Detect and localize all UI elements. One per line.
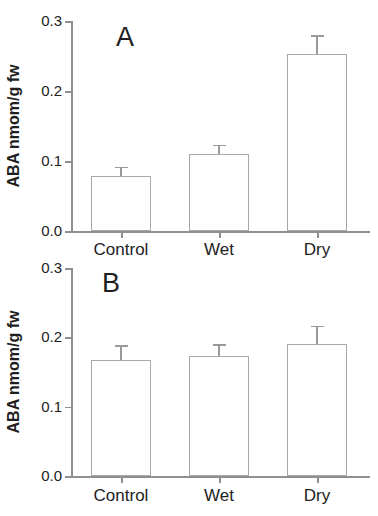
bar-control	[91, 360, 151, 476]
bar-dry	[287, 54, 347, 231]
y-tick-mark	[65, 21, 71, 23]
x-category-label-wet: Wet	[174, 486, 264, 505]
bar-dry	[287, 344, 347, 476]
x-tick-mark	[121, 478, 123, 483]
x-axis-line	[71, 231, 370, 233]
y-tick-mark	[65, 268, 71, 270]
y-tick-mark	[65, 161, 71, 163]
y-axis-line	[71, 268, 73, 477]
y-tick-label: 0.2	[18, 82, 62, 100]
y-tick-label: 0.3	[18, 259, 62, 277]
error-bar-cap-control	[115, 345, 128, 347]
bar-control	[91, 176, 151, 231]
x-category-label-control: Control	[76, 486, 166, 505]
panel-a: ABA nmom/g fw A 0.00.10.20.3ControlWetDr…	[0, 0, 378, 258]
plot-area-a: 0.00.10.20.3ControlWetDry	[0, 0, 378, 258]
x-axis-line	[71, 476, 370, 478]
y-tick-label: 0.1	[18, 398, 62, 416]
y-tick-mark	[65, 476, 71, 478]
y-tick-label: 0.0	[18, 222, 62, 240]
x-tick-mark	[121, 233, 123, 238]
y-tick-label: 0.0	[18, 467, 62, 485]
x-category-label-dry: Dry	[272, 486, 362, 505]
y-tick-mark	[65, 91, 71, 93]
error-bar-cap-dry	[311, 326, 324, 328]
bar-wet	[189, 356, 249, 476]
y-axis-line	[71, 21, 73, 233]
figure: ABA nmom/g fw A 0.00.10.20.3ControlWetDr…	[0, 0, 378, 516]
y-tick-mark	[65, 337, 71, 339]
y-tick-label: 0.1	[18, 152, 62, 170]
error-bar-cap-wet	[213, 344, 226, 346]
y-tick-label: 0.3	[18, 12, 62, 30]
x-tick-mark	[219, 478, 221, 483]
error-bar-cap-control	[115, 167, 128, 169]
y-tick-mark	[65, 407, 71, 409]
x-tick-mark	[317, 233, 319, 238]
y-tick-label: 0.2	[18, 328, 62, 346]
panel-b: ABA nmom/g fw B 0.00.10.20.3ControlWetDr…	[0, 258, 378, 516]
error-bar-cap-dry	[311, 35, 324, 37]
error-bar-cap-wet	[213, 145, 226, 147]
x-tick-mark	[219, 233, 221, 238]
bar-wet	[189, 154, 249, 231]
x-tick-mark	[317, 478, 319, 483]
x-category-label-control: Control	[76, 240, 166, 259]
x-category-label-wet: Wet	[174, 240, 264, 259]
y-tick-mark	[65, 231, 71, 233]
plot-area-b: 0.00.10.20.3ControlWetDry	[0, 258, 378, 516]
x-category-label-dry: Dry	[272, 240, 362, 259]
